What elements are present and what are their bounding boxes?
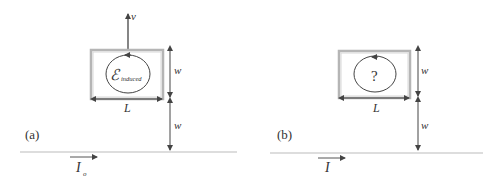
height-label-top: w [421,64,429,76]
unknown-emf-symbol: ? [371,68,378,84]
emf-subscript: induced [121,75,142,82]
velocity-label: v [131,10,136,22]
panel-b: ? L w w (b) I [270,48,483,175]
height-label-bottom: w [421,119,429,131]
width-label: L [372,101,380,115]
height-label-top: w [174,64,182,76]
current-symbol: I [324,160,331,175]
panel-label: (b) [277,127,292,142]
current-symbol: I [75,160,82,175]
panel-label: (a) [25,127,39,142]
panel-a: v ℰ induced L w w (a) I o [20,10,237,178]
figure-canvas: v ℰ induced L w w (a) I o ? [0,0,504,185]
width-label: L [123,101,131,115]
current-subscript: o [83,170,87,178]
height-label-bottom: w [174,119,182,131]
emf-symbol: ℰ [110,67,121,83]
